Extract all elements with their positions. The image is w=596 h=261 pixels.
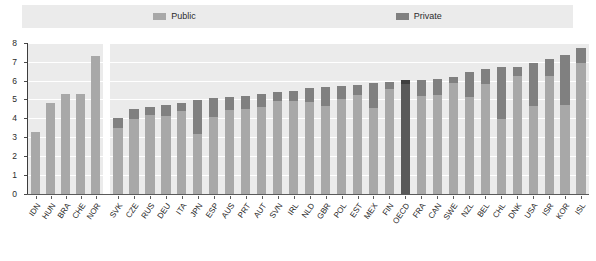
x-axis-tick-mark: [182, 196, 183, 199]
bar-irl[interactable]: [289, 91, 298, 194]
bar-swe[interactable]: [449, 77, 458, 194]
bar-slot: [158, 43, 174, 194]
x-axis-label-nzl: NZL: [461, 202, 476, 219]
bar-usa[interactable]: [529, 63, 538, 194]
bar-nor[interactable]: [91, 56, 100, 193]
bar-fin[interactable]: [385, 82, 394, 194]
bar-slot: [142, 43, 158, 194]
bar-segment-public: [369, 108, 378, 194]
bar-slot: [73, 43, 88, 194]
bar-segment-private: [545, 59, 554, 76]
bar-segment-private: [369, 83, 378, 108]
x-axis-label-cze: CZE: [125, 202, 141, 220]
bar-segment-private: [145, 107, 154, 115]
bar-aut[interactable]: [257, 94, 266, 194]
y-axis-tick-label: 7: [12, 58, 17, 67]
bar-deu[interactable]: [161, 105, 170, 193]
bar-can[interactable]: [433, 79, 442, 194]
bar-slot: [350, 43, 366, 194]
bar-bra[interactable]: [61, 94, 70, 194]
bar-isr[interactable]: [545, 59, 554, 194]
bar-nzl[interactable]: [465, 72, 474, 193]
bar-segment-public: [305, 102, 314, 193]
x-axis-label-mex: MEX: [364, 202, 381, 221]
bar-slot: [58, 43, 73, 194]
bar-jpn[interactable]: [193, 100, 202, 193]
bar-che[interactable]: [76, 94, 85, 194]
x-axis-tick: CHE: [73, 196, 88, 260]
bar-segment-public: [289, 101, 298, 193]
x-axis-tick-mark: [36, 196, 37, 199]
x-axis-tick: DNK: [509, 196, 525, 260]
x-axis-tick: DEU: [158, 196, 174, 260]
legend-swatch-private: [396, 13, 409, 20]
x-axis-tick: ISR: [541, 196, 557, 260]
bar-est[interactable]: [353, 85, 362, 193]
bar-slot: [254, 43, 270, 194]
bar-svn[interactable]: [273, 92, 282, 194]
legend-label-public: Public: [171, 12, 196, 21]
x-axis-label-est: EST: [349, 202, 364, 219]
x-axis-label-can: CAN: [428, 202, 444, 220]
bar-ita[interactable]: [177, 103, 186, 193]
x-axis-tick-mark: [373, 196, 374, 199]
bar-segment-private: [273, 92, 282, 101]
x-axis-tick: EST: [350, 196, 366, 260]
x-axis-label-dnk: DNK: [508, 202, 524, 220]
bar-segment-private: [225, 97, 234, 110]
x-axis-tick: AUS: [222, 196, 238, 260]
bar-segment-private: [529, 63, 538, 106]
bar-isl[interactable]: [576, 48, 585, 194]
bar-nld[interactable]: [305, 88, 314, 193]
bar-idn[interactable]: [31, 132, 40, 193]
x-axis-tick: HUN: [43, 196, 58, 260]
plot-area: 012345678 IDNHUNBRACHENOR SVKCZERUSDEUIT…: [0, 36, 596, 261]
x-axis-tick-mark: [469, 196, 470, 199]
x-axis-label-deu: DEU: [156, 202, 172, 220]
bar-fra[interactable]: [417, 80, 426, 194]
y-axis-tick-label: 1: [12, 170, 17, 179]
bar-segment-public: [177, 111, 186, 194]
bar-hun[interactable]: [46, 103, 55, 193]
bar-oecd[interactable]: [401, 80, 410, 194]
bar-slot: [461, 43, 477, 194]
bar-esp[interactable]: [209, 98, 218, 194]
bar-cze[interactable]: [129, 109, 138, 194]
x-axis-label-gbr: GBR: [316, 202, 333, 221]
y-axis-tick-label: 6: [12, 76, 17, 85]
bar-gbr[interactable]: [321, 87, 330, 193]
bar-pol[interactable]: [337, 86, 346, 193]
x-axis-tick: RUS: [142, 196, 158, 260]
x-axis-tick-mark: [358, 196, 359, 199]
x-axis-tick: SVN: [270, 196, 286, 260]
x-axis-label-ita: ITA: [175, 202, 188, 216]
x-axis-tick-mark: [262, 196, 263, 199]
bar-kor[interactable]: [560, 55, 569, 193]
bar-aus[interactable]: [225, 97, 234, 194]
bar-segment-public: [145, 115, 154, 193]
bar-slot: [477, 43, 493, 194]
bar-chl[interactable]: [497, 67, 506, 193]
x-axis-tick: BEL: [477, 196, 493, 260]
y-axis: 012345678: [0, 36, 24, 196]
bar-rus[interactable]: [145, 107, 154, 194]
bar-slot: [573, 43, 589, 194]
bar-svk[interactable]: [113, 118, 122, 193]
bar-dnk[interactable]: [513, 67, 522, 194]
x-axis-labels-left: IDNHUNBRACHENOR: [28, 196, 103, 260]
bar-prt[interactable]: [241, 96, 250, 194]
x-axis-label-prt: PRT: [237, 202, 253, 220]
x-axis-tick-mark: [549, 196, 550, 199]
x-axis-tick: CHL: [493, 196, 509, 260]
bar-segment-private: [481, 69, 490, 84]
x-axis-tick: NLD: [302, 196, 318, 260]
x-axis-tick-mark: [294, 196, 295, 199]
legend-swatch-public: [153, 13, 166, 20]
bar-bel[interactable]: [481, 69, 490, 193]
bar-segment-private: [465, 72, 474, 96]
bar-mex[interactable]: [369, 83, 378, 194]
bar-segment-private: [289, 91, 298, 101]
x-axis-tick-mark: [118, 196, 119, 199]
bar-segment-public: [417, 96, 426, 194]
bar-segment-public: [225, 110, 234, 194]
